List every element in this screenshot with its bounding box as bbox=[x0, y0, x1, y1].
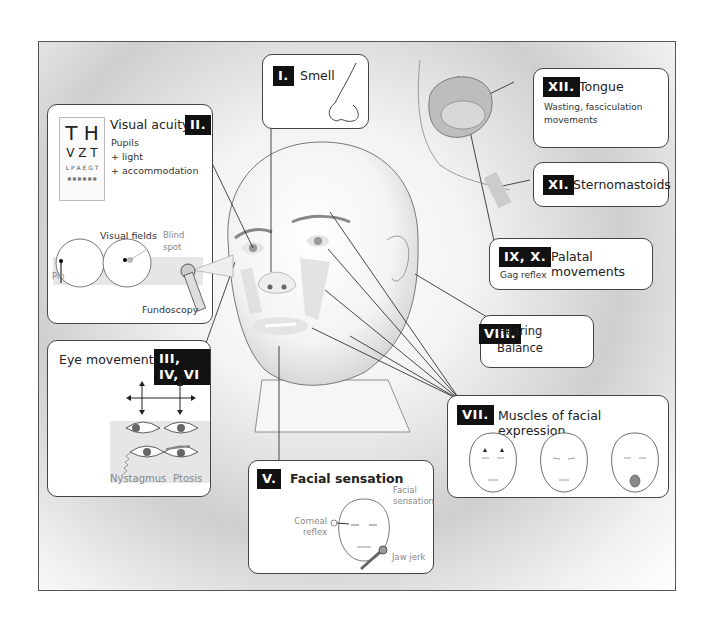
box-sternomastoids: XI. Sternomastoids bbox=[533, 162, 669, 207]
box-hearing: VIII. Hearing Balance bbox=[480, 315, 594, 368]
sternomastoids-title: Sternomastoids bbox=[573, 177, 671, 192]
nystagmus-label: Nystagmus bbox=[110, 473, 166, 484]
hearing-lines: Hearing Balance bbox=[497, 323, 543, 357]
box-vision: T H V Z T L P A E G T ■ ■ ■ ■ ■ ■ Visual… bbox=[47, 104, 213, 324]
box-facial-sensation: V. Facial sensation Facial sensation Cor… bbox=[248, 460, 434, 574]
box-palatal: IX, X. Palatal movements Gag reflex bbox=[489, 238, 653, 290]
numeral-xi: XI. bbox=[543, 175, 574, 195]
tongue-title: Tongue bbox=[579, 79, 624, 94]
jaw-jerk-label: Jaw jerk bbox=[392, 552, 425, 562]
box-tongue: XII. Tongue Wasting, fasciculationmoveme… bbox=[533, 68, 669, 148]
expression-faces-icon bbox=[448, 396, 670, 499]
numeral-ix-x: IX, X. bbox=[499, 247, 551, 267]
fundoscopy-label: Fundoscopy bbox=[142, 303, 198, 317]
nose-icon bbox=[263, 55, 370, 130]
facial-sensation-label: Facial sensation bbox=[393, 485, 433, 507]
box-facial-expression: VII. Muscles of facial expression bbox=[447, 395, 669, 498]
corneal-reflex-label: Corneal reflex bbox=[287, 516, 327, 538]
palatal-title: Palatal movements bbox=[551, 249, 652, 279]
box-smell: I. Smell bbox=[262, 54, 369, 129]
box-eye-movements: Eye movements III, IV, VI Nystagmus Ptos… bbox=[47, 340, 211, 497]
tongue-tests: Wasting, fasciculationmovements bbox=[544, 101, 642, 127]
numeral-xii: XII. bbox=[543, 77, 580, 97]
ptosis-label: Ptosis bbox=[173, 473, 202, 484]
gag-reflex-label: Gag reflex bbox=[500, 270, 546, 280]
ophthalmoscope-icon bbox=[48, 105, 214, 325]
